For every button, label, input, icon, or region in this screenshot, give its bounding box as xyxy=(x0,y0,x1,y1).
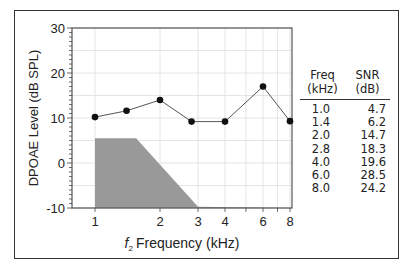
freq-cell: 2.0 xyxy=(300,129,342,142)
freq-cell: 8.0 xyxy=(300,182,342,195)
svg-text:3: 3 xyxy=(194,214,201,229)
x-axis-label: f2Frequency (kHz) xyxy=(125,235,240,253)
svg-text:8: 8 xyxy=(286,214,293,229)
table-row: 2.818.3 xyxy=(300,143,390,156)
data-point xyxy=(188,118,195,125)
data-point xyxy=(260,83,267,90)
snr-cell: 24.2 xyxy=(344,182,390,195)
svg-text:6: 6 xyxy=(259,214,266,229)
x-axis-ticks: 123468 xyxy=(91,208,293,229)
snr-column-header: SNR(dB) xyxy=(345,68,390,96)
snr-table-body: 1.04.71.46.22.014.72.818.34.019.66.028.5… xyxy=(300,103,390,195)
svg-text:0: 0 xyxy=(58,156,65,171)
svg-text:20: 20 xyxy=(51,66,65,81)
data-point xyxy=(123,108,130,115)
freq-cell: 2.8 xyxy=(300,143,342,156)
data-point xyxy=(157,97,164,104)
svg-text:-10: -10 xyxy=(46,201,65,216)
data-point xyxy=(92,114,99,121)
freq-column-header: Freq(kHz) xyxy=(300,68,345,96)
table-row: 2.014.7 xyxy=(300,129,390,142)
snr-cell: 14.7 xyxy=(344,129,390,142)
snr-table-header: Freq(kHz) SNR(dB) xyxy=(300,68,390,100)
svg-text:30: 30 xyxy=(51,21,65,36)
data-point xyxy=(222,118,229,125)
svg-text:4: 4 xyxy=(221,214,228,229)
svg-text:2: 2 xyxy=(156,214,163,229)
svg-text:10: 10 xyxy=(51,111,65,126)
data-point xyxy=(287,118,294,125)
noise-floor-area xyxy=(95,138,290,208)
dpoae-line xyxy=(95,87,290,122)
snr-table: Freq(kHz) SNR(dB) 1.04.71.46.22.014.72.8… xyxy=(300,68,390,195)
table-row: 8.024.2 xyxy=(300,182,390,195)
y-axis-ticks: 3020100-10 xyxy=(46,21,72,216)
y-axis-label: DPOAE Level (dB SPL) xyxy=(26,50,41,187)
svg-text:1: 1 xyxy=(91,214,98,229)
snr-cell: 18.3 xyxy=(344,143,390,156)
